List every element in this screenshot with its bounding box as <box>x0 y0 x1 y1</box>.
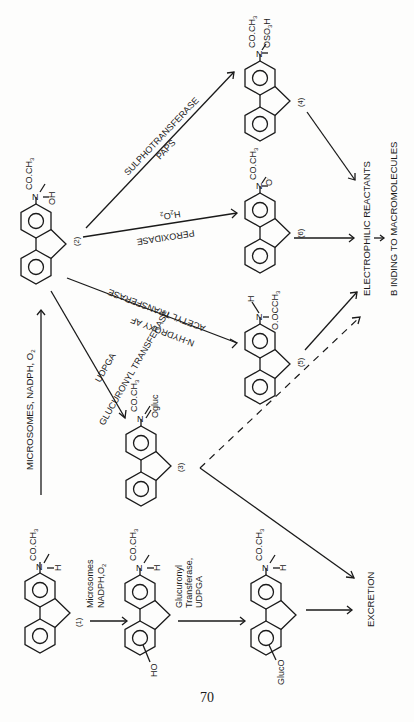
compound-5-acetoxy-af: N H O.OCCH3 (5) <box>245 290 305 404</box>
compound-id: (5) <box>296 357 305 367</box>
svg-text:MICROSOMES, NADPH, O2: MICROSOMES, NADPH, O2 <box>24 349 36 470</box>
compound-hydroxy-aaf: N CO.CH3 H HO <box>125 528 170 677</box>
compound-gluco-aaf: N CO.CH3 H GlucO <box>251 528 296 685</box>
arrow-glucuronide-to-excretion <box>306 606 352 614</box>
arrow-2-to-6: H2O2 PEROXIDASE <box>83 208 237 247</box>
compound-id: (3) <box>176 462 185 472</box>
arrow-4-to-electrophilic <box>307 112 355 180</box>
ring-substituent: HO <box>149 664 159 678</box>
svg-text:N: N <box>32 192 39 202</box>
svg-text:UDPGA: UDPGA <box>93 351 118 384</box>
arrow-3-to-electrophilic-dashed <box>200 317 360 468</box>
svg-text:O.OCCH3: O.OCCH3 <box>270 290 281 330</box>
svg-text:CO.CH3: CO.CH3 <box>128 528 139 561</box>
svg-text:Microsomes: Microsomes <box>85 559 95 608</box>
compound-id: (2) <box>72 236 81 246</box>
n-atom: N <box>36 562 43 572</box>
svg-text:CO.CH3: CO.CH3 <box>24 157 35 190</box>
svg-text:Transferase,: Transferase, <box>184 558 194 608</box>
svg-text:N: N <box>137 414 144 424</box>
arrow-1-to-2: MICROSOMES, NADPH, O2 <box>24 310 45 495</box>
electrophilic-reactants-label: ELECTROPHILIC REACTANTS <box>361 161 372 296</box>
svg-text:NADPH,O2: NADPH,O2 <box>96 563 107 608</box>
n-substituent-side: H <box>53 565 63 572</box>
compound-id: (6) <box>296 228 305 238</box>
svg-text:N: N <box>256 49 263 59</box>
svg-text:UDPGA: UDPGA <box>194 576 204 608</box>
svg-text:N: N <box>262 563 269 573</box>
svg-text:CO.CH3: CO.CH3 <box>254 528 265 561</box>
svg-text:H2O2: H2O2 <box>159 208 181 222</box>
arrow-5-to-electrophilic <box>305 292 357 350</box>
svg-text:PEROXIDASE: PEROXIDASE <box>136 228 195 247</box>
svg-text:SULPHOTRANSFERASE: SULPHOTRANSFERASE <box>122 95 201 177</box>
svg-text:Glucuronyl: Glucuronyl <box>174 565 184 608</box>
svg-text:N: N <box>136 563 143 573</box>
svg-text:O.: O. <box>263 177 274 186</box>
compound-3-glucuronide: N CO.CH3 Ogluc (3) <box>126 379 185 506</box>
compound-6-nitroxide: N CO.CH3 O. (6) <box>245 147 305 273</box>
book-page: N CO.CH3 H (1) Microsomes NADPH,O2 N CO.… <box>0 0 414 722</box>
binding-to-macromolecules-label: B INDING TO MACROMOLECULES <box>388 142 399 296</box>
svg-text:H: H <box>152 565 162 572</box>
arrow-electrophilic-to-binding <box>374 235 384 241</box>
svg-text:CO.CH3: CO.CH3 <box>247 15 258 48</box>
compound-id: (1) <box>74 617 83 627</box>
svg-text:H: H <box>278 565 288 572</box>
compound-id: (4) <box>296 97 305 107</box>
svg-text:Ogluc: Ogluc <box>150 394 160 418</box>
arrow-2-to-4: SULPHOTRANSFERASE PAPS <box>86 72 234 228</box>
ring-substituent: GlucO <box>276 659 286 685</box>
compound-4-sulphate: N CO.CH3 OSO3H (4) <box>245 15 305 141</box>
compound-2-n-hydroxy-aaf: N CO.CH3 OH (2) <box>21 157 81 284</box>
svg-text:OSO3H: OSO3H <box>262 18 273 48</box>
svg-text:CO.CH3: CO.CH3 <box>129 379 140 412</box>
n-substituent-top: CO.CH3 <box>28 528 39 561</box>
svg-text:CO.CH3: CO.CH3 <box>248 147 259 180</box>
svg-text:OH: OH <box>47 192 57 206</box>
metabolic-pathway-diagram: N CO.CH3 H (1) Microsomes NADPH,O2 N CO.… <box>0 0 414 722</box>
page-number: 70 <box>200 690 214 705</box>
excretion-label: EXCRETION <box>365 571 376 627</box>
arrow-hydroxy-to-glucuronide: Glucuronyl Transferase, UDPGA <box>174 558 245 625</box>
svg-text:H: H <box>246 296 256 303</box>
arrow-1-to-hydroxy: Microsomes NADPH,O2 <box>85 559 127 625</box>
svg-text:N: N <box>256 181 263 191</box>
arrow-3-to-excretion <box>200 468 354 578</box>
svg-text:N: N <box>256 312 263 322</box>
compound-1: N CO.CH3 H (1) <box>25 528 83 653</box>
